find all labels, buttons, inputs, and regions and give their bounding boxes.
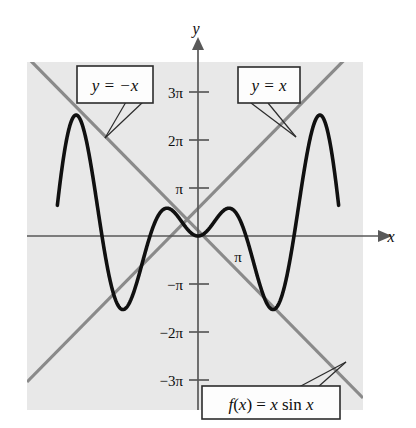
y-tick-label-pi: π bbox=[175, 181, 183, 197]
y-tick-label-negative-2pi: −2π bbox=[159, 325, 183, 341]
figure-container: 3π 2π π −π −2π −3π π y x y = −x y = x bbox=[0, 0, 416, 428]
callout-label-y-equals-x: y = x bbox=[249, 76, 287, 95]
y-tick-label-negative-pi: −π bbox=[167, 277, 183, 293]
function-plot: 3π 2π π −π −2π −3π π y x y = −x y = x bbox=[0, 0, 416, 428]
callout-label-function: f(x) = x sin x bbox=[228, 395, 314, 414]
y-tick-label-3pi: 3π bbox=[168, 85, 184, 101]
x-axis-label: x bbox=[386, 228, 394, 245]
y-axis-arrowhead bbox=[192, 37, 204, 50]
y-tick-label-2pi: 2π bbox=[168, 133, 184, 149]
callout-label-y-equals-negative-x: y = −x bbox=[90, 76, 139, 95]
y-axis-label: y bbox=[190, 20, 200, 38]
y-tick-label-negative-3pi: −3π bbox=[159, 373, 183, 389]
x-tick-label-pi: π bbox=[234, 249, 242, 265]
